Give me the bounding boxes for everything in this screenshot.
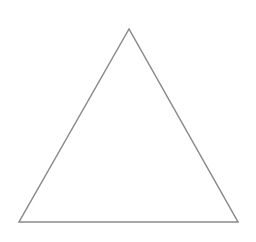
diagram-canvas: [0, 0, 256, 242]
triangle-diagram: [0, 0, 256, 242]
triangle-shape: [19, 29, 238, 222]
